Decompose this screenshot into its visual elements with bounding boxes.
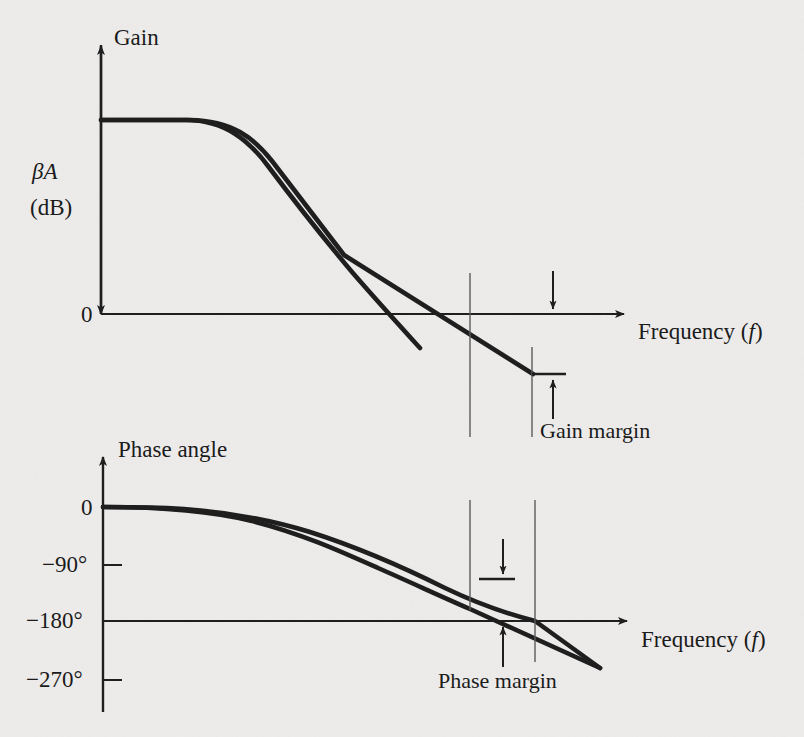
bode-plot-figure: Gain βA (dB) 0 Frequency (f) Gain margin… bbox=[0, 0, 804, 737]
gain-x-axis-title-text: Frequency ( bbox=[638, 319, 749, 344]
gain-y-axis-tick-label-zero: 0 bbox=[81, 303, 93, 326]
gain-margin-annotation-label: Gain margin bbox=[540, 420, 650, 442]
gain-x-axis-title: Frequency (f) bbox=[638, 320, 763, 343]
gain-y-axis-title: Gain bbox=[114, 26, 159, 49]
phase-margin-annotation-label: Phase margin bbox=[438, 670, 557, 692]
phase-x-axis-title: Frequency (f) bbox=[641, 628, 766, 651]
phase-y-tick-label-minus-90: −90° bbox=[42, 553, 87, 576]
phase-y-axis-title: Phase angle bbox=[118, 438, 227, 461]
phase-curve-shape bbox=[103, 507, 600, 668]
phase-y-tick-label-minus-270: −270° bbox=[26, 668, 83, 691]
phase-x-axis-title-close: ) bbox=[758, 627, 766, 652]
phase-x-axis-title-text: Frequency ( bbox=[641, 627, 752, 652]
gain-x-axis-title-close: ) bbox=[755, 319, 763, 344]
phase-y-tick-label-minus-180: −180° bbox=[26, 609, 83, 632]
gain-curve-main bbox=[101, 120, 533, 374]
gain-y-axis-label-beta-a: βA bbox=[32, 160, 58, 183]
gain-y-axis-label-db: (dB) bbox=[30, 196, 72, 219]
phase-y-tick-label-0: 0 bbox=[81, 496, 93, 519]
phase-curve bbox=[103, 507, 600, 668]
gain-plot-group bbox=[101, 45, 624, 437]
